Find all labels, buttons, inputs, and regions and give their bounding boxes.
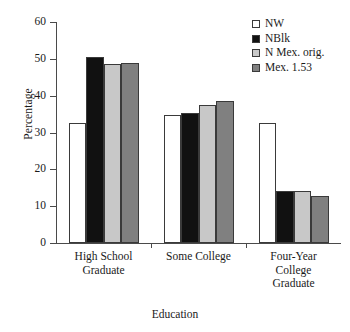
x-tick-mark — [151, 243, 152, 248]
x-category-label: Four-YearCollegeGraduate — [246, 250, 341, 291]
legend-item: NBlk — [252, 32, 324, 46]
bar — [294, 191, 312, 243]
x-axis-label: Education — [0, 308, 350, 320]
y-tick-label: 40 — [10, 90, 46, 102]
bar — [276, 191, 294, 243]
legend-swatch-icon — [252, 35, 260, 43]
x-axis-line — [56, 243, 341, 244]
bar — [259, 123, 277, 243]
x-category-label-line: College — [246, 264, 341, 278]
legend: NWNBlkN Mex. orig.Mex. 1.53 — [252, 17, 324, 75]
bar — [69, 123, 87, 243]
legend-label: NW — [265, 18, 284, 30]
bar — [86, 57, 104, 243]
bar-chart-figure: Percentage 0102030405060 High SchoolGrad… — [0, 0, 350, 332]
bar — [199, 105, 217, 243]
bar — [104, 64, 122, 243]
x-tick-mark — [246, 243, 247, 248]
bar — [216, 101, 234, 243]
legend-item: Mex. 1.53 — [252, 61, 324, 75]
x-category-label-line: Some College — [151, 250, 246, 264]
legend-swatch-icon — [252, 20, 260, 28]
y-tick-label: 30 — [10, 127, 46, 139]
legend-label: NBlk — [265, 33, 290, 45]
x-category-label-line: Graduate — [56, 264, 151, 278]
y-tick-label: 60 — [10, 16, 46, 28]
x-category-label-line: Four-Year — [246, 250, 341, 264]
x-category-label: High SchoolGraduate — [56, 250, 151, 277]
bar — [311, 196, 329, 243]
legend-label: Mex. 1.53 — [265, 62, 312, 74]
y-tick-label: 0 — [10, 237, 46, 249]
legend-swatch-icon — [252, 49, 260, 57]
legend-item: NW — [252, 17, 324, 31]
legend-item: N Mex. orig. — [252, 46, 324, 60]
y-tick-mark — [50, 243, 56, 244]
legend-label: N Mex. orig. — [265, 47, 324, 59]
x-category-label: Some College — [151, 250, 246, 264]
bar — [181, 113, 199, 243]
y-tick-label: 50 — [10, 53, 46, 65]
legend-swatch-icon — [252, 64, 260, 72]
x-category-label-line: High School — [56, 250, 151, 264]
y-axis-label: Percentage — [22, 64, 34, 164]
x-category-label-line: Graduate — [246, 277, 341, 291]
bar — [121, 63, 139, 243]
y-tick-label: 10 — [10, 200, 46, 212]
y-tick-label: 20 — [10, 163, 46, 175]
bar — [164, 115, 182, 243]
